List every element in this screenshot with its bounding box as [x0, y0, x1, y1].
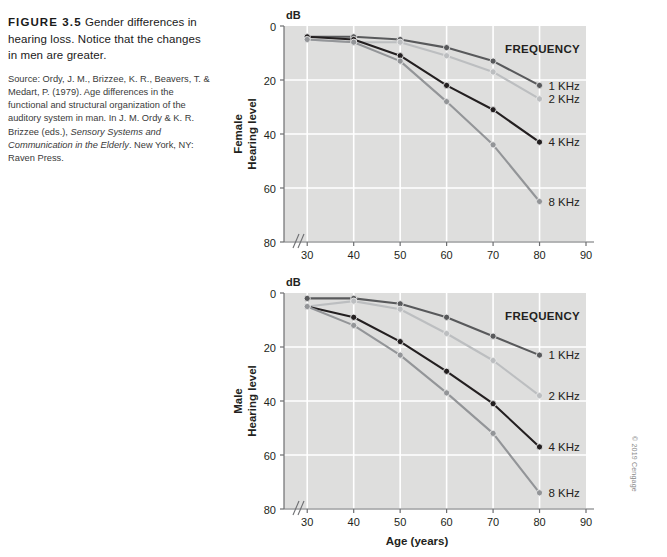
series-marker	[444, 368, 450, 374]
y-axis-tick-label: 60	[264, 450, 276, 462]
series-marker	[304, 36, 310, 42]
x-axis-tick-label: 60	[440, 516, 452, 528]
y-axis-tick-label: 40	[264, 129, 276, 141]
x-axis-tick-label: 30	[301, 249, 313, 261]
series-marker	[397, 306, 403, 312]
series-marker	[444, 390, 450, 396]
caption-headline: FIGURE 3.5 Gender differences in hearing…	[8, 14, 213, 64]
series-marker	[444, 45, 450, 51]
series-marker	[397, 352, 403, 358]
chart-female: 02040608030405060708090dBAge (years)Fema…	[228, 4, 658, 266]
chart-female-svg: 02040608030405060708090dBAge (years)Fema…	[228, 4, 658, 266]
figure-number: FIGURE 3.5	[8, 16, 82, 28]
series-marker	[490, 58, 496, 64]
figure-caption: FIGURE 3.5 Gender differences in hearing…	[8, 14, 213, 166]
series-marker	[536, 444, 542, 450]
series-marker	[351, 39, 357, 45]
series-marker	[536, 490, 542, 496]
series-marker	[490, 69, 496, 75]
x-axis-tick-label: 70	[487, 249, 499, 261]
y-axis-tick-label: 0	[270, 21, 276, 33]
x-axis-tick-label: 80	[533, 516, 545, 528]
series-marker	[351, 322, 357, 328]
y-axis-unit-label: dB	[286, 9, 301, 21]
series-marker	[304, 295, 310, 301]
series-label-1-khz: 1 KHz	[549, 349, 581, 361]
x-axis-tick-label: 80	[533, 249, 545, 261]
chart-male-svg: 02040608030405060708090dBAge (years)Male…	[228, 271, 658, 551]
panel-label: Female	[232, 114, 244, 154]
x-axis-tick-label: 60	[440, 249, 452, 261]
series-marker	[536, 82, 542, 88]
x-axis-tick-label: 40	[348, 516, 360, 528]
series-marker	[351, 298, 357, 304]
y-axis-tick-label: 20	[264, 75, 276, 87]
series-label-1-khz: 1 KHz	[549, 80, 581, 92]
series-marker	[444, 82, 450, 88]
legend-title: FREQUENCY	[505, 43, 580, 55]
x-axis-tick-label: 90	[580, 249, 592, 261]
copyright-notice: © 2019 Cengage	[631, 436, 638, 492]
series-label-4-khz: 4 KHz	[549, 136, 581, 148]
y-axis-tick-label: 40	[264, 396, 276, 408]
y-axis-title: Hearing level	[246, 98, 258, 170]
x-axis-tick-label: 40	[348, 249, 360, 261]
series-marker	[490, 401, 496, 407]
series-marker	[536, 96, 542, 102]
series-marker	[351, 314, 357, 320]
series-label-2-khz: 2 KHz	[549, 93, 581, 105]
x-axis-tick-label: 50	[394, 249, 406, 261]
y-axis-tick-label: 0	[270, 288, 276, 300]
panel-label: Male	[232, 388, 244, 414]
x-axis-tick-label: 50	[394, 516, 406, 528]
series-marker	[444, 99, 450, 105]
series-marker	[536, 393, 542, 399]
series-marker	[397, 339, 403, 345]
series-marker	[490, 333, 496, 339]
x-axis-title: Age (years)	[386, 535, 449, 547]
series-marker	[397, 58, 403, 64]
series-marker	[444, 330, 450, 336]
y-axis-unit-label: dB	[286, 276, 301, 288]
series-marker	[536, 139, 542, 145]
series-marker	[490, 107, 496, 113]
legend-title: FREQUENCY	[505, 310, 580, 322]
series-label-8-khz: 8 KHz	[549, 196, 581, 208]
series-marker	[304, 303, 310, 309]
series-marker	[444, 53, 450, 59]
y-axis-tick-label: 60	[264, 183, 276, 195]
series-label-8-khz: 8 KHz	[549, 487, 581, 499]
x-axis-tick-label: 70	[487, 516, 499, 528]
series-label-2-khz: 2 KHz	[549, 390, 581, 402]
series-marker	[397, 39, 403, 45]
y-axis-tick-label: 20	[264, 342, 276, 354]
caption-source: Source: Ordy, J. M., Brizzee, K. R., Bea…	[8, 73, 213, 166]
series-label-4-khz: 4 KHz	[549, 441, 581, 453]
series-marker	[490, 357, 496, 363]
x-axis-tick-label: 30	[301, 516, 313, 528]
series-marker	[536, 352, 542, 358]
series-marker	[490, 142, 496, 148]
y-axis-tick-label: 80	[264, 237, 276, 249]
series-marker	[536, 198, 542, 204]
y-axis-title: Hearing level	[246, 365, 258, 437]
series-marker	[490, 430, 496, 436]
x-axis-tick-label: 90	[580, 516, 592, 528]
series-marker	[444, 314, 450, 320]
chart-male: 02040608030405060708090dBAge (years)Male…	[228, 271, 658, 551]
y-axis-tick-label: 80	[264, 504, 276, 516]
